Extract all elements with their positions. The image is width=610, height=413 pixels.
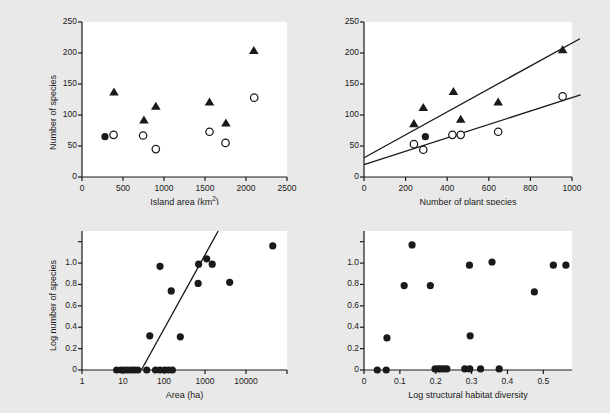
data-point-open-circle — [410, 140, 417, 147]
b-right-xtick-label: 0.4 — [487, 376, 527, 386]
b-right-ytick-label: 0.6 — [331, 300, 359, 310]
b-left-ytick-label: 0.2 — [49, 343, 77, 353]
a-left-xtick-label: 0 — [62, 183, 102, 193]
a-right-xtick-label: 0 — [344, 183, 384, 193]
data-point-filled-circle — [195, 261, 202, 268]
b-right-xtick-label: 0.2 — [416, 376, 456, 386]
figure-canvas: (a) (b) Number of species Island area (k… — [0, 0, 610, 413]
plot-area — [364, 22, 572, 177]
data-point-filled-circle — [466, 262, 473, 269]
b-left-ytick-label: 0.4 — [49, 321, 77, 331]
a-right-ytick-label: 250 — [331, 16, 359, 26]
a-right-xtick-label: 800 — [510, 183, 550, 193]
data-point-open-circle — [152, 145, 159, 152]
a-right-ytick-label: 100 — [331, 109, 359, 119]
a-left-xtick-label: 500 — [103, 183, 143, 193]
a-right-xtick-label: 1000 — [552, 183, 592, 193]
a-left-ytick-label: 200 — [49, 47, 77, 57]
b-left-ytick-label: 0.6 — [49, 300, 77, 310]
b-right-xtick-label: 0.3 — [452, 376, 492, 386]
a-left-xtick-label: 2500 — [267, 183, 307, 193]
data-point-filled-circle — [488, 258, 495, 265]
b-left-ytick-label: 1.0 — [49, 257, 77, 267]
b-right-ytick-label: 0 — [331, 364, 359, 374]
chart-a-left-ylabel: Number of species — [48, 50, 58, 150]
data-point-filled-circle — [269, 242, 276, 249]
data-point-open-circle — [206, 128, 213, 135]
a-left-ytick-label: 50 — [49, 140, 77, 150]
b-right-ytick-label: 0.8 — [331, 278, 359, 288]
data-point-filled-circle — [467, 332, 474, 339]
data-point-filled-circle — [427, 282, 434, 289]
b-right-xtick-label: 0.1 — [380, 376, 420, 386]
data-point-open-circle — [494, 128, 501, 135]
b-left-xtick-label: 100 — [144, 376, 184, 386]
data-point-filled-circle — [156, 263, 163, 270]
a-left-xtick-label: 1500 — [185, 183, 225, 193]
data-point-open-circle — [110, 131, 117, 138]
data-point-filled-circle — [401, 282, 408, 289]
chart-a-left-svg — [0, 0, 310, 200]
data-point-open-circle — [420, 146, 427, 153]
a-right-ytick-label: 0 — [331, 171, 359, 181]
b-left-xtick-label: 10 — [103, 376, 143, 386]
data-point-filled-circle — [177, 333, 184, 340]
data-point-filled-circle — [562, 262, 569, 269]
plot-area — [82, 231, 287, 370]
data-point-filled-circle — [226, 279, 233, 286]
b-right-xtick-label: 0 — [344, 376, 384, 386]
data-point-filled-circle — [203, 255, 210, 262]
a-right-ytick-label: 50 — [331, 140, 359, 150]
data-point-filled-circle — [531, 288, 538, 295]
data-point-filled-circle — [477, 365, 484, 372]
a-right-ytick-label: 150 — [331, 78, 359, 88]
data-point-filled-circle — [134, 366, 141, 373]
data-point-filled-circle — [466, 365, 473, 372]
data-point-filled-circle — [101, 133, 108, 140]
data-point-filled-circle — [143, 366, 150, 373]
data-point-filled-circle — [496, 365, 503, 372]
data-point-open-circle — [222, 139, 229, 146]
data-point-open-circle — [139, 132, 146, 139]
a-left-ytick-label: 0 — [49, 171, 77, 181]
a-right-xtick-label: 600 — [469, 183, 509, 193]
data-point-filled-circle — [195, 280, 202, 287]
chart-b-left-xlabel: Area (ha) — [85, 390, 285, 400]
data-point-open-circle — [457, 131, 464, 138]
data-point-filled-circle — [550, 262, 557, 269]
data-point-filled-circle — [146, 332, 153, 339]
data-point-open-circle — [559, 93, 566, 100]
a-left-xtick-label: 2000 — [226, 183, 266, 193]
plot-area — [364, 231, 572, 370]
data-point-filled-circle — [443, 365, 450, 372]
a-left-ytick-label: 100 — [49, 109, 77, 119]
a-left-ytick-label: 250 — [49, 16, 77, 26]
data-point-filled-circle — [374, 366, 381, 373]
b-right-ytick-label: 0.2 — [331, 343, 359, 353]
data-point-filled-circle — [209, 261, 216, 268]
b-left-ytick-label: 0.8 — [49, 278, 77, 288]
a-left-xtick-label: 1000 — [144, 183, 184, 193]
b-left-xtick-label: 10000 — [226, 376, 266, 386]
a-right-ytick-label: 200 — [331, 47, 359, 57]
b-right-ytick-label: 0.4 — [331, 321, 359, 331]
data-point-open-circle — [449, 131, 456, 138]
data-point-filled-circle — [169, 366, 176, 373]
a-left-ytick-label: 150 — [49, 78, 77, 88]
a-right-xtick-label: 200 — [386, 183, 426, 193]
b-left-xtick-label: 1 — [62, 376, 102, 386]
chart-a-right-svg — [300, 0, 610, 200]
b-left-xtick-label: 1000 — [185, 376, 225, 386]
b-right-xtick-label: 0.5 — [523, 376, 563, 386]
data-point-filled-circle — [168, 287, 175, 294]
b-left-ytick-label: 0 — [49, 364, 77, 374]
data-point-filled-circle — [383, 334, 390, 341]
b-right-ytick-label: 1.0 — [331, 257, 359, 267]
chart-b-right-xlabel: Log structural habitat diversity — [368, 390, 568, 400]
data-point-filled-circle — [422, 133, 429, 140]
data-point-filled-circle — [408, 241, 415, 248]
data-point-open-circle — [251, 94, 258, 101]
data-point-filled-circle — [383, 366, 390, 373]
a-right-xtick-label: 400 — [427, 183, 467, 193]
